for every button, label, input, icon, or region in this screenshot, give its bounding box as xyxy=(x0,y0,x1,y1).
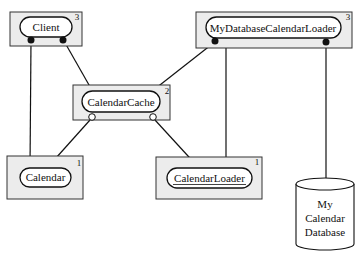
node-database[interactable]: My Calendar Database xyxy=(296,178,354,250)
filled-dot-icon xyxy=(60,37,67,44)
node-count: 2 xyxy=(165,86,170,96)
open-circle-icon xyxy=(150,114,157,121)
filled-dot-icon xyxy=(212,38,219,45)
node-my-database-calendar-loader[interactable]: MyDatabaseCalendarLoader 3 xyxy=(196,12,352,48)
node-count: 3 xyxy=(75,12,80,22)
node-calendar-loader[interactable]: CalendarLoader 1 xyxy=(156,157,262,199)
node-client[interactable]: Client 3 xyxy=(10,12,82,46)
node-label: CalendarCache xyxy=(87,96,154,108)
edge-client-calendarcache xyxy=(64,41,93,92)
filled-dot-icon xyxy=(28,37,35,44)
node-count: 3 xyxy=(346,12,351,22)
edge-client-calendar xyxy=(30,41,31,168)
node-label: MyDatabaseCalendarLoader xyxy=(210,22,337,34)
node-calendar[interactable]: Calendar 1 xyxy=(7,156,83,199)
node-count: 1 xyxy=(77,158,82,168)
component-diagram: Client 3 MyDatabaseCalendarLoader 3 Cale… xyxy=(0,0,358,253)
node-calendar-cache[interactable]: CalendarCache 2 xyxy=(73,85,170,120)
db-label-line1: My xyxy=(317,198,333,210)
node-label: Client xyxy=(33,21,60,33)
cylinder-top-icon xyxy=(296,178,354,190)
db-label-line3: Database xyxy=(305,226,345,238)
node-label: CalendarLoader xyxy=(174,172,245,184)
edge-mydbloader-calendarcache xyxy=(151,41,216,92)
node-count: 1 xyxy=(255,157,260,167)
open-circle-icon xyxy=(89,114,96,121)
filled-dot-icon xyxy=(323,39,330,46)
node-label: Calendar xyxy=(26,171,66,183)
db-label-line2: Calendar xyxy=(305,212,345,224)
